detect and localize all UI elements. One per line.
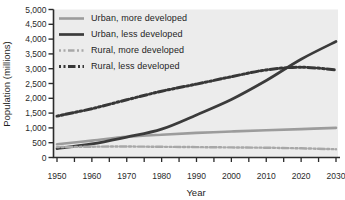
legend-label: Rural, less developed — [91, 61, 180, 71]
legend-label: Rural, more developed — [91, 45, 184, 55]
x-tick-label: 2000 — [222, 171, 241, 181]
legend-label: Urban, more developed — [91, 13, 187, 23]
legend: Urban, more developed Urban, less develo… — [58, 10, 187, 74]
x-tick-label: 2030 — [327, 171, 345, 181]
y-tick-label: 0 — [42, 153, 47, 163]
y-tick-label: 500 — [32, 138, 46, 148]
legend-line-swatch-rural-less — [58, 60, 85, 73]
x-axis-title: Year — [186, 187, 205, 198]
legend-line-swatch-rural-more — [58, 44, 85, 57]
x-tick-label: 2010 — [257, 171, 276, 181]
y-tick-label: 1,500 — [25, 108, 47, 118]
legend-label: Urban, less developed — [91, 29, 183, 39]
legend-item: Rural, more developed — [58, 42, 187, 58]
x-tick-label: 2020 — [292, 171, 311, 181]
legend-line-swatch-urban-less — [58, 28, 85, 41]
population-urban-rural-chart: 05001,0001,5002,0002,5003,0003,5004,0004… — [0, 0, 345, 200]
x-tick-label: 1970 — [117, 171, 136, 181]
y-tick-label: 1,000 — [25, 123, 47, 133]
y-axis-title: Population (millions) — [1, 41, 12, 127]
y-tick-label: 2,500 — [25, 79, 47, 89]
x-tick-label: 1990 — [187, 171, 206, 181]
legend-item: Urban, more developed — [58, 10, 187, 26]
y-tick-label: 4,500 — [25, 19, 47, 29]
y-tick-label: 2,000 — [25, 93, 47, 103]
y-tick-label: 4,000 — [25, 34, 47, 44]
legend-line-swatch-urban-more — [58, 12, 85, 25]
x-tick-label: 1950 — [48, 171, 67, 181]
y-tick-label: 3,000 — [25, 64, 47, 74]
legend-item: Rural, less developed — [58, 58, 187, 74]
x-tick-label: 1960 — [82, 171, 101, 181]
legend-item: Urban, less developed — [58, 26, 187, 42]
y-tick-label: 3,500 — [25, 49, 47, 59]
y-tick-label: 5,000 — [25, 5, 47, 15]
x-tick-label: 1980 — [152, 171, 171, 181]
